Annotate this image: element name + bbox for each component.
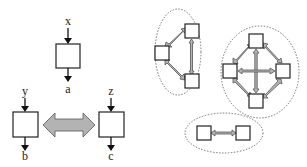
node	[236, 126, 250, 140]
node	[223, 64, 237, 78]
node	[155, 46, 169, 60]
top-block-group: x a	[56, 14, 80, 96]
input-label-y: y	[22, 84, 28, 98]
node	[276, 64, 290, 78]
output-label-b: b	[22, 149, 28, 163]
cluster-two-nodes	[185, 113, 263, 153]
cluster-three-nodes	[155, 9, 201, 95]
block-top	[56, 44, 80, 68]
arrowhead-icon	[64, 38, 72, 44]
block-left	[13, 112, 38, 137]
node	[185, 24, 199, 38]
block-right	[99, 112, 124, 137]
input-label-x: x	[65, 14, 71, 28]
double-arrow-icon	[263, 43, 282, 63]
output-label-a: a	[65, 82, 71, 96]
double-arrow-icon	[165, 60, 185, 80]
output-label-c: c	[108, 149, 113, 163]
diagram-canvas: x a y b z c	[0, 0, 307, 167]
left-block-group: y b	[13, 84, 38, 163]
node	[249, 94, 263, 108]
right-block-group: z c	[99, 84, 124, 163]
node	[185, 74, 199, 88]
double-arrow-icon	[211, 130, 236, 136]
double-arrow-icon	[263, 79, 282, 98]
input-label-z: z	[108, 84, 113, 98]
cluster-four-nodes	[221, 26, 299, 118]
double-arrow-icon	[43, 113, 95, 137]
double-arrow-icon	[165, 28, 186, 47]
node	[249, 34, 263, 48]
arrowhead-icon	[21, 106, 29, 112]
double-arrow-icon	[189, 39, 194, 75]
node	[197, 126, 211, 140]
arrowhead-icon	[107, 106, 115, 112]
